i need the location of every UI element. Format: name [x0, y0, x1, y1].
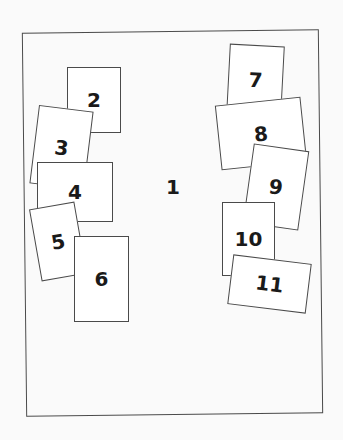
card-label: 3: [53, 137, 69, 159]
card-label: 9: [268, 176, 285, 198]
card-11: 11: [227, 254, 312, 313]
frame-label: 1: [163, 174, 183, 200]
card-label: 7: [248, 70, 263, 91]
card-label: 6: [95, 269, 109, 289]
card-label: 11: [254, 272, 284, 295]
card-label: 2: [87, 90, 101, 110]
card-label: 5: [49, 230, 66, 252]
card-6: 6: [74, 236, 129, 322]
diagram-canvas: 1 2 3 4 5 6 7 8 9 10 11: [0, 0, 343, 440]
card-label: 4: [68, 182, 82, 202]
card-label: 10: [235, 229, 263, 249]
card-label: 8: [253, 123, 269, 144]
